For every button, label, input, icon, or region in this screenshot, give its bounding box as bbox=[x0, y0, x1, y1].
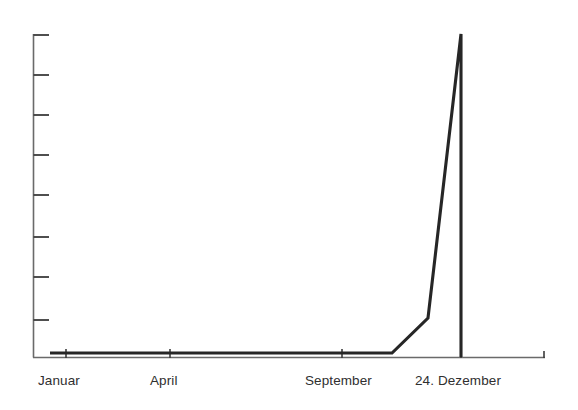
line-chart: Januar April September 24. Dezember bbox=[0, 0, 578, 410]
x-tick-label-september: September bbox=[305, 373, 372, 388]
x-tick-label-april: April bbox=[150, 373, 178, 388]
chart-container: Januar April September 24. Dezember bbox=[0, 0, 578, 410]
chart-background bbox=[0, 0, 578, 410]
x-tick-label-januar: Januar bbox=[38, 373, 80, 388]
x-tick-label-dezember: 24. Dezember bbox=[415, 373, 501, 388]
